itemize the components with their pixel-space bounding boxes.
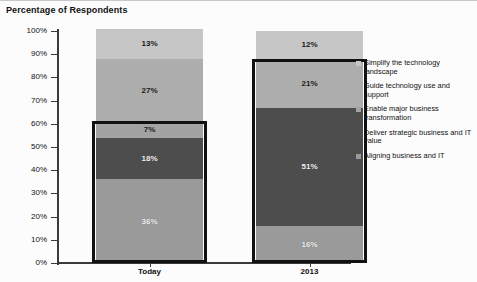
y-axis-tick — [51, 147, 57, 148]
y-axis-tick — [51, 77, 57, 78]
bar-segment-label: 7% — [144, 125, 156, 134]
y-axis-tick — [51, 170, 57, 171]
bar-segment[interactable]: 12% — [256, 31, 363, 59]
legend-swatch-icon — [356, 107, 361, 112]
legend-item[interactable]: Deliver strategic business and IT value — [356, 129, 474, 146]
y-axis-tick-label: 70% — [0, 96, 47, 105]
x-axis-tick-label: 2013 — [250, 267, 370, 276]
y-axis-tick — [51, 31, 57, 32]
bar-segment[interactable]: 7% — [96, 122, 203, 138]
y-axis-tick-label: 30% — [0, 188, 47, 197]
bar-segment[interactable]: 27% — [96, 59, 203, 122]
bar-2013[interactable]: 16%51%21%12% — [256, 31, 363, 263]
y-axis-tick-label: 10% — [0, 235, 47, 244]
legend-item[interactable]: Enable major business transformation — [356, 105, 474, 122]
bar-segment-label: 36% — [141, 217, 157, 226]
y-axis-tick — [51, 263, 57, 264]
bar-segment-label: 21% — [301, 79, 317, 88]
bar-segment-label: 16% — [301, 240, 317, 249]
y-axis-tick — [51, 101, 57, 102]
bar-segment-label: 12% — [301, 40, 317, 49]
y-axis-tick-label: 20% — [0, 212, 47, 221]
y-axis-tick-label: 50% — [0, 142, 47, 151]
bar-segment-label: 13% — [141, 39, 157, 48]
bar-segment[interactable]: 16% — [256, 226, 363, 263]
chart-frame: Percentage of Respondents 100%90%80%70%6… — [0, 0, 477, 282]
bar-segment[interactable]: 13% — [96, 29, 203, 59]
chart-title: Percentage of Respondents — [6, 5, 128, 15]
bar-segment-label: 27% — [141, 86, 157, 95]
bar-today[interactable]: 36%18%7%27%13% — [96, 31, 203, 263]
legend-item[interactable]: Aligning business and IT — [356, 152, 474, 161]
legend-swatch-icon — [356, 61, 361, 66]
bar-segment[interactable]: 18% — [96, 138, 203, 180]
legend-swatch-icon — [356, 131, 361, 136]
y-axis-tick — [51, 124, 57, 125]
y-axis-tick — [51, 240, 57, 241]
y-axis-tick-label: 0% — [0, 258, 47, 267]
y-axis-tick-label: 60% — [0, 119, 47, 128]
legend-swatch-icon — [356, 154, 361, 159]
bar-segment[interactable]: 36% — [96, 179, 203, 263]
legend-item[interactable]: Simplify the technology landscape — [356, 59, 474, 76]
chart-legend: Simplify the technology landscapeGuide t… — [356, 59, 474, 166]
y-axis-tick-label: 90% — [0, 49, 47, 58]
legend-item-label: Simplify the technology landscape — [364, 59, 474, 76]
legend-item-label: Aligning business and IT — [364, 152, 445, 161]
legend-swatch-icon — [356, 84, 361, 89]
legend-item-label: Guide technology use and support — [364, 82, 474, 99]
legend-item[interactable]: Guide technology use and support — [356, 82, 474, 99]
y-axis-tick — [51, 54, 57, 55]
x-axis-tick-label: Today — [90, 267, 210, 276]
y-axis-tick — [51, 193, 57, 194]
bar-segment[interactable]: 21% — [256, 59, 363, 108]
plot-area: 36%18%7%27%13%16%51%21%12% — [58, 31, 350, 263]
bar-segment-label: 51% — [301, 162, 317, 171]
y-axis-tick — [51, 217, 57, 218]
y-axis-tick-label: 80% — [0, 72, 47, 81]
legend-item-label: Enable major business transformation — [364, 105, 474, 122]
legend-item-label: Deliver strategic business and IT value — [364, 129, 474, 146]
y-axis-tick-label: 100% — [0, 26, 47, 35]
y-axis-tick-label: 40% — [0, 165, 47, 174]
bar-segment-label: 18% — [141, 154, 157, 163]
bar-segment[interactable]: 51% — [256, 108, 363, 226]
